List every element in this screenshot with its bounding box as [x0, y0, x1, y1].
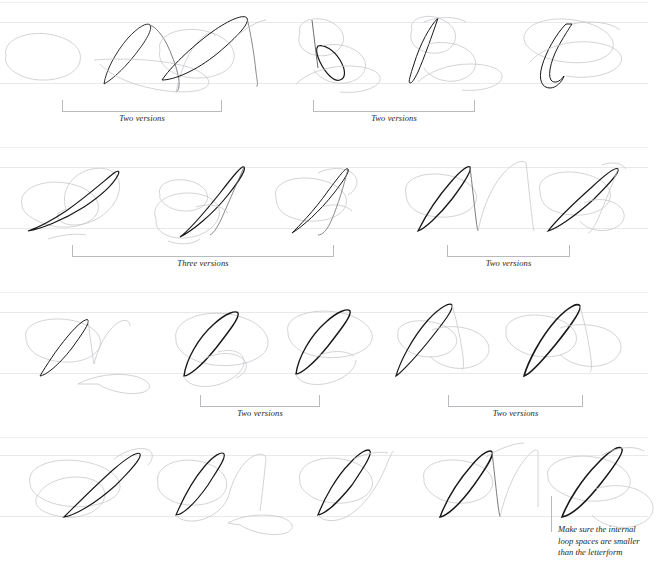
bracket-bar — [72, 256, 334, 257]
glyph-N-2 — [26, 319, 150, 394]
callout-leader-line — [551, 496, 552, 532]
annotation-bracket: Two versions — [62, 100, 222, 126]
bracket-bar — [313, 111, 475, 112]
bracket-bar — [62, 111, 222, 112]
glyph-A-2 — [160, 17, 266, 86]
glyph-B-1 — [296, 19, 380, 93]
glyph-N-1 — [406, 162, 534, 232]
annotation-label: Two versions — [200, 408, 320, 418]
annotation-bracket: Three versions — [72, 245, 334, 271]
glyph-O-1 — [176, 312, 268, 387]
annotation-bracket: Two versions — [447, 245, 570, 271]
annotation-label: Two versions — [447, 258, 570, 268]
callout-loop-space: Make sure the internal loop spaces are s… — [551, 496, 648, 562]
annotation-label: Two versions — [62, 113, 222, 123]
glyph-G-2 — [155, 167, 245, 244]
bracket-bar — [447, 256, 570, 257]
callout-text-line: loop spaces are smaller — [558, 536, 658, 548]
glyph-A-1 — [6, 24, 215, 92]
bracket-bar — [200, 406, 320, 407]
annotation-label: Two versions — [313, 113, 475, 123]
glyph-W-1 — [424, 443, 538, 517]
glyph-B-2 — [409, 16, 502, 90]
annotation-label: Two versions — [448, 408, 583, 418]
glyph-H-1 — [540, 163, 626, 233]
annotation-bracket: Two versions — [448, 395, 583, 421]
annotation-label: Three versions — [72, 258, 334, 268]
callout-text-line: Make sure the internal — [558, 524, 658, 536]
glyph-U-1 — [158, 453, 293, 535]
callout-text-line: than the letterform — [558, 547, 658, 559]
glyph-P-1 — [396, 304, 489, 376]
glyph-O-2 — [288, 310, 373, 385]
callout-text: Make sure the internal loop spaces are s… — [558, 524, 658, 559]
annotation-bracket: Two versions — [200, 395, 320, 421]
glyph-T-1 — [30, 448, 153, 517]
annotation-bracket: Two versions — [313, 100, 475, 126]
bracket-bar — [448, 406, 583, 407]
glyph-C-1 — [524, 19, 622, 88]
glyph-V-1 — [300, 450, 394, 521]
glyph-G-1 — [22, 168, 120, 239]
glyph-G-3 — [276, 169, 357, 236]
glyph-P-2 — [506, 305, 621, 376]
